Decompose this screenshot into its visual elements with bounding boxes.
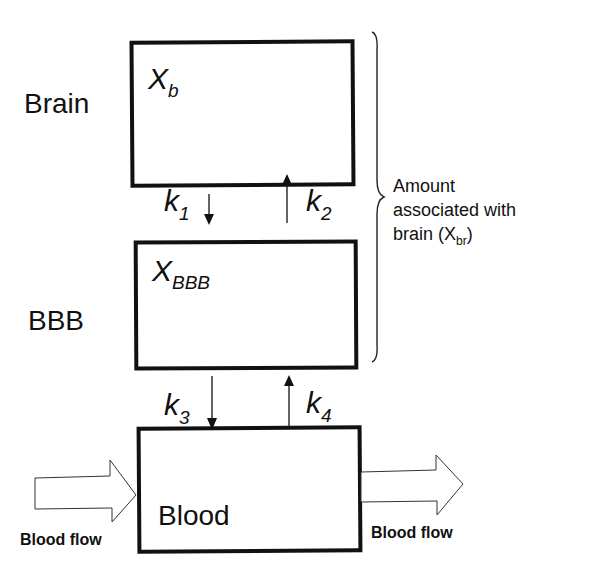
blood-flow-out-label: Blood flow: [371, 524, 453, 542]
bracket-annotation: Amount associated with brain (Xbr): [393, 174, 516, 253]
bracket-line-3: brain (Xbr): [393, 222, 516, 253]
rate-symbol: k: [164, 388, 179, 421]
rate-constant-k3: k3: [164, 390, 190, 427]
brain-side-label: Brain: [24, 88, 89, 120]
arrow-down-k1-icon: [204, 194, 214, 225]
blood-flow-out-arrow-icon: [361, 455, 463, 515]
rate-subscript: 3: [179, 407, 190, 428]
blood-compartment-box: [137, 425, 363, 554]
rate-constant-k4: k4: [306, 388, 332, 425]
blood-flow-in-arrow-icon: [35, 460, 136, 522]
variable-subscript: b: [168, 80, 179, 101]
blood-flow-in-label: Blood flow: [20, 531, 102, 549]
variable-symbol: X: [152, 254, 172, 287]
rate-symbol: k: [306, 184, 321, 217]
brain-amount-variable: Xb: [148, 64, 179, 100]
rate-symbol: k: [164, 184, 179, 217]
rate-subscript: 1: [179, 203, 190, 224]
bbb-amount-variable: XBBB: [152, 256, 210, 292]
bracket-line-3-prefix: brain (X: [393, 224, 456, 244]
bracket-line-1: Amount: [393, 174, 516, 198]
rate-constant-k1: k1: [164, 186, 190, 223]
variable-symbol: X: [148, 62, 168, 95]
bracket-line-3-suffix: ): [467, 224, 473, 244]
rate-symbol: k: [306, 386, 321, 419]
compartment-diagram: Brain BBB Xb XBBB Blood k1 k2 k3 k4 Amou…: [0, 0, 590, 576]
bbb-side-label: BBB: [28, 305, 84, 337]
arrow-up-k4-icon: [284, 375, 294, 428]
rate-subscript: 4: [321, 405, 332, 426]
rate-subscript: 2: [321, 203, 332, 224]
curly-brace-icon: [372, 32, 384, 362]
rate-constant-k2: k2: [306, 186, 332, 223]
bracket-line-3-subscript: br: [456, 234, 467, 248]
blood-compartment-label: Blood: [158, 500, 230, 532]
variable-subscript: BBB: [172, 272, 210, 293]
bracket-line-2: associated with: [393, 198, 516, 222]
arrow-down-k3-icon: [207, 376, 217, 430]
